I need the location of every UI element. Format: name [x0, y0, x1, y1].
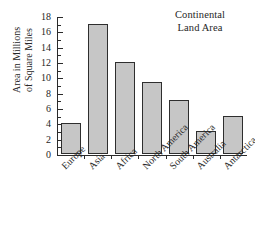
y-tick-label: 10 — [35, 73, 51, 83]
x-tick — [166, 156, 167, 159]
y-tick-minor — [58, 25, 61, 26]
y-tick-minor — [58, 117, 61, 118]
y-tick-label: 12 — [35, 58, 51, 68]
y-tick-minor — [58, 71, 61, 72]
y-axis-label-line-2: of Square Miles — [23, 0, 35, 135]
y-tick-major — [58, 78, 63, 79]
y-tick-major — [58, 63, 63, 64]
y-tick-label: 16 — [35, 27, 51, 37]
y-tick-label: 18 — [35, 12, 51, 22]
y-axis-label: Area in Millions of Square Miles — [11, 0, 35, 135]
y-tick-major — [58, 32, 63, 33]
x-tick — [111, 156, 112, 159]
y-tick-label: 14 — [35, 43, 51, 53]
bar-chart: Continental Land Area Area in Millions o… — [0, 0, 255, 235]
x-tick — [138, 156, 139, 159]
y-tick-minor — [58, 101, 61, 102]
bar — [88, 24, 108, 154]
y-tick-label: 6 — [35, 104, 51, 114]
y-tick-minor — [58, 86, 61, 87]
y-tick-major — [58, 17, 63, 18]
x-tick — [84, 156, 85, 159]
y-tick-label: 0 — [35, 150, 51, 160]
y-tick-label: 2 — [35, 135, 51, 145]
y-axis-label-line-1: Area in Millions — [11, 0, 23, 135]
y-tick-major — [58, 94, 63, 95]
x-tick — [220, 156, 221, 159]
y-tick-minor — [58, 40, 61, 41]
y-tick-major — [58, 48, 63, 49]
y-tick-major — [58, 155, 63, 156]
bar — [115, 62, 135, 154]
y-tick-minor — [58, 55, 61, 56]
x-tick — [193, 156, 194, 159]
y-tick-label: 4 — [35, 119, 51, 129]
y-tick-major — [58, 109, 63, 110]
plot-area — [57, 17, 247, 155]
y-tick-label: 8 — [35, 89, 51, 99]
